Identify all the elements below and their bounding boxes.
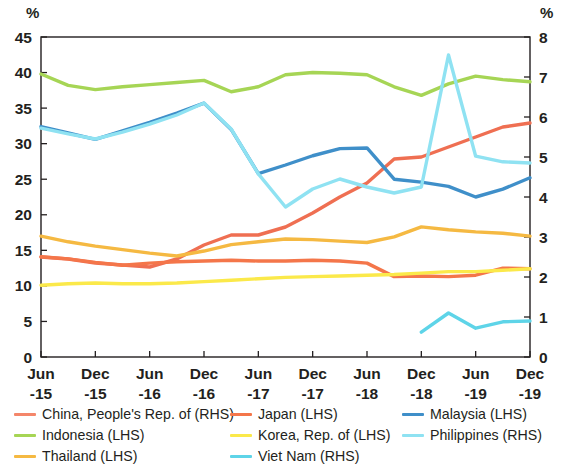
svg-text:0: 0: [23, 349, 32, 366]
legend-item-philippines[interactable]: Philippines (RHS): [402, 425, 564, 446]
legend-item-thailand[interactable]: Thailand (LHS): [14, 446, 210, 467]
svg-text:5: 5: [539, 149, 548, 166]
right-axis-ticks: 876543210: [524, 29, 548, 366]
svg-text:15: 15: [15, 242, 33, 259]
legend-label-korea: Korea, Rep. of (LHS): [258, 425, 390, 446]
series-line: [41, 257, 530, 277]
svg-text:35: 35: [15, 100, 33, 117]
data-series-layer: [41, 55, 530, 332]
legend-swatch-philippines: [402, 434, 424, 438]
legend-label-philippines: Philippines (RHS): [430, 425, 542, 446]
legend-item-malaysia[interactable]: Malaysia (LHS): [402, 404, 564, 425]
svg-text:0: 0: [539, 349, 548, 366]
svg-text:Jun: Jun: [353, 365, 381, 382]
series-line: [421, 313, 530, 332]
legend-item-vietnam[interactable]: Viet Nam (RHS): [230, 446, 398, 467]
svg-text:30: 30: [15, 135, 32, 152]
svg-text:3: 3: [539, 229, 548, 246]
legend-label-malaysia: Malaysia (LHS): [430, 404, 527, 425]
legend-swatch-china: [14, 413, 36, 417]
chart-legend: China, People's Rep. of (RHS)Indonesia (…: [8, 404, 564, 468]
svg-text:Jun: Jun: [462, 365, 490, 382]
svg-text:10: 10: [15, 277, 32, 294]
svg-text:-15: -15: [30, 385, 53, 402]
svg-text:Dec: Dec: [516, 365, 545, 382]
chart-figure: % % 454035302520151050 876543210 Jun-15D…: [0, 0, 564, 471]
legend-label-vietnam: Viet Nam (RHS): [258, 446, 359, 467]
legend-column-2: Japan (LHS)Korea, Rep. of (LHS)Viet Nam …: [230, 404, 398, 467]
svg-text:20: 20: [15, 206, 32, 223]
svg-text:-19: -19: [464, 385, 487, 402]
legend-swatch-japan: [230, 413, 252, 417]
legend-label-japan: Japan (LHS): [258, 404, 338, 425]
legend-swatch-malaysia: [402, 413, 424, 417]
svg-text:-16: -16: [193, 385, 216, 402]
svg-text:-15: -15: [84, 385, 107, 402]
svg-text:4: 4: [539, 189, 548, 206]
legend-item-indonesia[interactable]: Indonesia (LHS): [14, 425, 210, 446]
plot-area: 454035302520151050 876543210 Jun-15Dec-1…: [0, 0, 564, 471]
svg-text:2: 2: [539, 269, 548, 286]
svg-text:Dec: Dec: [407, 365, 436, 382]
legend-swatch-indonesia: [14, 434, 36, 438]
svg-text:Jun: Jun: [136, 365, 164, 382]
svg-text:6: 6: [539, 109, 548, 126]
svg-text:45: 45: [15, 29, 33, 46]
svg-text:Jun: Jun: [245, 365, 273, 382]
legend-label-indonesia: Indonesia (LHS): [42, 425, 145, 446]
svg-text:-18: -18: [356, 385, 379, 402]
legend-label-china: China, People's Rep. of (RHS): [42, 404, 234, 425]
svg-text:8: 8: [539, 29, 548, 46]
svg-text:-19: -19: [519, 385, 542, 402]
svg-text:5: 5: [23, 313, 32, 330]
x-axis-labels: Jun-15Dec-15Jun-16Dec-16Jun-17Dec-17Jun-…: [27, 365, 544, 402]
series-line: [41, 103, 530, 197]
legend-swatch-vietnam: [230, 455, 252, 459]
svg-text:-17: -17: [247, 385, 269, 402]
svg-text:40: 40: [15, 64, 32, 81]
legend-item-china[interactable]: China, People's Rep. of (RHS): [14, 404, 210, 425]
svg-text:Dec: Dec: [190, 365, 219, 382]
legend-column-3: Malaysia (LHS)Philippines (RHS): [402, 404, 564, 446]
svg-text:7: 7: [539, 69, 548, 86]
line-chart-svg: 454035302520151050 876543210 Jun-15Dec-1…: [0, 0, 564, 471]
legend-swatch-korea: [230, 434, 252, 438]
legend-item-japan[interactable]: Japan (LHS): [230, 404, 398, 425]
x-axis-ticks: [41, 351, 530, 357]
svg-text:Dec: Dec: [81, 365, 110, 382]
svg-text:1: 1: [539, 309, 548, 326]
svg-text:Dec: Dec: [298, 365, 327, 382]
svg-text:Jun: Jun: [27, 365, 55, 382]
legend-label-thailand: Thailand (LHS): [42, 446, 137, 467]
svg-text:-17: -17: [301, 385, 323, 402]
legend-column-1: China, People's Rep. of (RHS)Indonesia (…: [14, 404, 210, 467]
series-line: [41, 55, 530, 207]
legend-swatch-thailand: [14, 455, 36, 459]
svg-text:-16: -16: [138, 385, 161, 402]
series-line: [41, 227, 530, 256]
series-line: [41, 123, 530, 267]
svg-text:-18: -18: [410, 385, 433, 402]
left-axis-ticks: 454035302520151050: [15, 29, 47, 366]
svg-text:25: 25: [15, 171, 33, 188]
legend-item-korea[interactable]: Korea, Rep. of (LHS): [230, 425, 398, 446]
